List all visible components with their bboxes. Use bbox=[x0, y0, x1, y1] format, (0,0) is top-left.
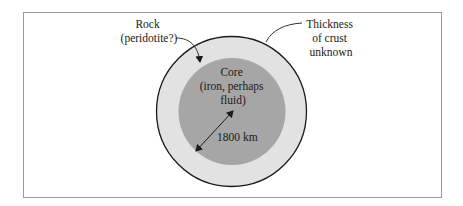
mantle-label-line2: (peridotite?) bbox=[121, 32, 178, 45]
core-label-line1: Core bbox=[220, 66, 242, 78]
crust-label-line2: of crust bbox=[312, 32, 348, 44]
crust-label: Thickness of crust unknown bbox=[306, 18, 356, 58]
planet-interior-diagram: Rock (peridotite?) Thickness of crust un… bbox=[0, 0, 463, 206]
crust-label-line1: Thickness bbox=[306, 18, 353, 30]
core-label-line3: fluid) bbox=[220, 94, 246, 107]
core-label-line2: (iron, perhaps bbox=[200, 80, 264, 93]
radius-label: 1800 km bbox=[217, 131, 258, 143]
crust-label-line3: unknown bbox=[310, 46, 353, 58]
mantle-label-line1: Rock bbox=[135, 18, 160, 30]
